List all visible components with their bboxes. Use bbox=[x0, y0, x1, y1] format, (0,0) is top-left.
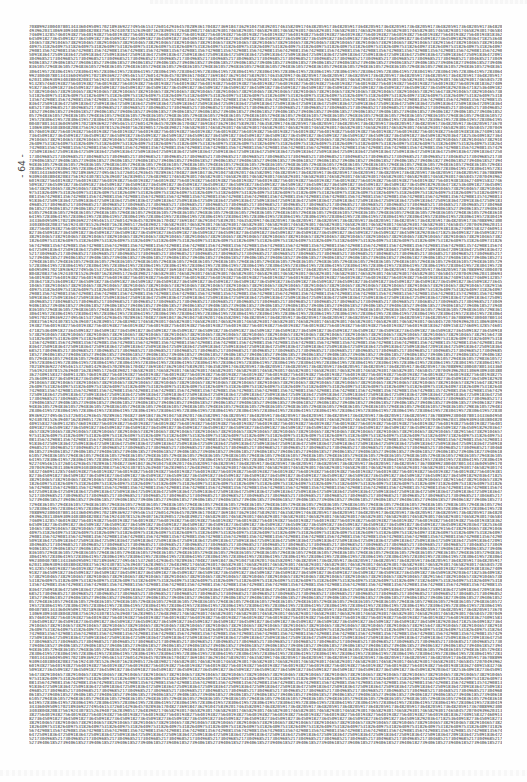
document-page: - 64 - 708899230040780134336049509170218… bbox=[0, 0, 527, 782]
digit-text-block: 7088992300407801343360495091702189369227… bbox=[29, 25, 502, 746]
digit-line: 5273940618527394061852739406185273940618… bbox=[29, 741, 502, 745]
bleed-through-text-top bbox=[150, 0, 527, 4]
bleed-through-text-bottom bbox=[0, 770, 527, 776]
